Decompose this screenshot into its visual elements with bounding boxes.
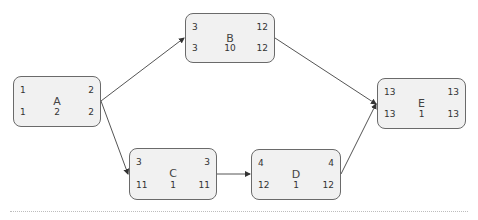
- node-d-top-left: 4: [258, 158, 264, 168]
- node-a-top-right: 2: [88, 85, 94, 95]
- node-c-bottom-right: 11: [199, 180, 210, 190]
- node-b-bottom-right: 12: [257, 43, 268, 53]
- node-a-top-left: 1: [20, 85, 26, 95]
- edge-a-b: [101, 38, 184, 101]
- node-a[interactable]: 1 2 A 1 2 2: [13, 76, 101, 127]
- node-c-top-right: 3: [204, 157, 210, 167]
- node-e-top-left: 13: [384, 87, 395, 97]
- dotted-divider: [10, 211, 468, 212]
- edge-d-e: [341, 104, 376, 174]
- node-c[interactable]: 3 3 C 11 1 11: [129, 148, 217, 200]
- node-e[interactable]: 13 13 E 13 1 13: [377, 78, 466, 129]
- node-b[interactable]: 3 12 B 3 10 12: [185, 13, 275, 63]
- node-c-top-left: 3: [136, 157, 142, 167]
- node-a-bottom-right: 2: [88, 107, 94, 117]
- node-c-label: C: [130, 168, 216, 180]
- node-d[interactable]: 4 4 D 12 1 12: [251, 149, 341, 200]
- node-e-bottom-right: 13: [448, 109, 459, 119]
- node-b-top-left: 3: [192, 22, 198, 32]
- node-b-top-right: 12: [257, 22, 268, 32]
- node-d-top-right: 4: [328, 158, 334, 168]
- edge-b-e: [275, 38, 376, 104]
- node-a-bottom-middle: 2: [14, 107, 100, 117]
- edge-a-c: [101, 101, 128, 174]
- node-e-top-right: 13: [448, 87, 459, 97]
- node-d-bottom-right: 12: [323, 180, 334, 190]
